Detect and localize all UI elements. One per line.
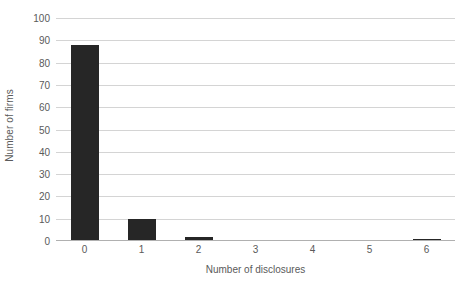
y-axis-title: Number of firms — [0, 0, 18, 250]
y-axis-tick-label: 70 — [39, 79, 50, 90]
x-axis-line — [56, 240, 455, 241]
y-axis-tick-label: 20 — [39, 191, 50, 202]
bar-slot — [113, 18, 170, 241]
x-axis-tick-labels: 0123456 — [56, 244, 455, 260]
y-axis-tick-label: 60 — [39, 102, 50, 113]
x-axis-title: Number of disclosures — [56, 264, 455, 275]
bar-slot — [56, 18, 113, 241]
bar-slot — [284, 18, 341, 241]
bar[interactable] — [71, 45, 99, 241]
y-axis-tick-label: 90 — [39, 35, 50, 46]
y-axis-title-text: Number of firms — [4, 89, 15, 162]
y-axis-tick-label: 100 — [33, 13, 50, 24]
y-axis-tick-label: 50 — [39, 124, 50, 135]
x-axis-tick-label: 5 — [367, 244, 373, 255]
y-axis-tick-label: 40 — [39, 146, 50, 157]
bar-slot — [398, 18, 455, 241]
x-axis-tick-label: 2 — [196, 244, 202, 255]
x-axis-tick-label: 6 — [424, 244, 430, 255]
y-axis-tick-label: 10 — [39, 213, 50, 224]
y-axis-tick-label: 80 — [39, 57, 50, 68]
x-axis-tick-label: 4 — [310, 244, 316, 255]
bar-slot — [227, 18, 284, 241]
x-axis-tick-label: 1 — [139, 244, 145, 255]
plot-area — [56, 18, 455, 241]
y-axis-tick-labels: 1009080706050403020100 — [18, 0, 54, 292]
bars-layer — [56, 18, 455, 241]
bar[interactable] — [128, 219, 156, 241]
bar-slot — [341, 18, 398, 241]
bar-slot — [170, 18, 227, 241]
y-axis-tick-label: 0 — [44, 236, 50, 247]
x-axis-tick-label: 0 — [82, 244, 88, 255]
x-axis-tick-label: 3 — [253, 244, 259, 255]
bar-chart: Number of firms 1009080706050403020100 0… — [0, 0, 472, 292]
y-axis-tick-label: 30 — [39, 169, 50, 180]
